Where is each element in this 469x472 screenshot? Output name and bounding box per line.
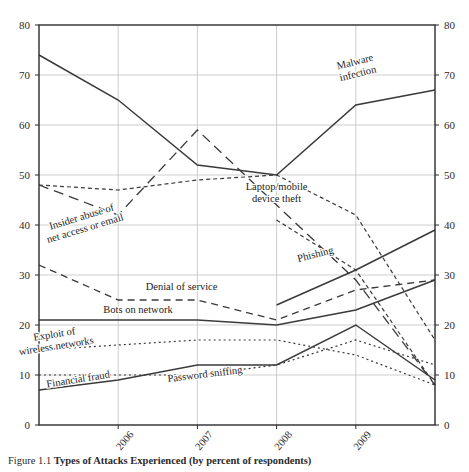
y-tick-label-right: 50 bbox=[444, 169, 456, 181]
series-label-line: Denial of service bbox=[146, 281, 218, 292]
y-tick-label: 30 bbox=[19, 269, 31, 281]
y-tick-label: 60 bbox=[19, 119, 31, 131]
series-label-bots-on-network: Bots on network bbox=[103, 304, 173, 315]
series-line bbox=[39, 175, 435, 340]
x-tick-label: 2006 bbox=[114, 429, 136, 452]
x-tick-label: 2009 bbox=[351, 429, 373, 452]
y-tick-label-right: 0 bbox=[444, 419, 450, 431]
y-tick-label: 70 bbox=[19, 69, 31, 81]
series-line bbox=[39, 265, 435, 320]
series-label-line: Financial fraud bbox=[46, 368, 112, 389]
series-label-denial-of-service: Denial of service bbox=[146, 281, 218, 292]
line-chart: 01020304050607080 01020304050607080 2006… bbox=[0, 0, 469, 472]
x-tick-label: 2007 bbox=[193, 429, 215, 452]
caption-title: Types of Attacks Experienced (by percent… bbox=[54, 455, 312, 466]
y-tick-label-right: 60 bbox=[444, 119, 456, 131]
figure-caption: Figure 1.1 Types of Attacks Experienced … bbox=[8, 455, 466, 466]
y-tick-label: 20 bbox=[19, 319, 31, 331]
series-label-password-sniffing: Password sniffing bbox=[167, 364, 244, 384]
y-tick-labels: 01020304050607080 bbox=[19, 19, 31, 431]
figure-container: 01020304050607080 01020304050607080 2006… bbox=[0, 0, 469, 472]
y-tick-label: 0 bbox=[25, 419, 31, 431]
series-label-insider-abuse-of-net-access-or-email: Insider abuse ofnet access or email bbox=[42, 200, 125, 245]
y-tick-label-right: 20 bbox=[444, 319, 456, 331]
series-line bbox=[39, 280, 435, 325]
series-label-line: Laptop/mobile bbox=[246, 181, 308, 192]
x-tick-labels: 2006200720082009 bbox=[114, 429, 374, 452]
series-label-laptop-mobile-device-theft: Laptop/mobiledevice theft bbox=[246, 181, 308, 204]
x-tick-label: 2008 bbox=[272, 429, 294, 452]
y-tick-label-right: 10 bbox=[444, 369, 456, 381]
y-tick-label: 50 bbox=[19, 169, 31, 181]
y-tick-label-right: 40 bbox=[444, 219, 456, 231]
y-tick-label-right: 80 bbox=[444, 19, 456, 31]
caption-number: Figure 1.1 bbox=[8, 455, 51, 466]
y-tick-label: 40 bbox=[19, 219, 31, 231]
y-tick-labels-right: 01020304050607080 bbox=[444, 19, 456, 431]
series-label-financial-fraud: Financial fraud bbox=[46, 368, 112, 389]
series-label-malware-infection: Malwareinfection bbox=[336, 52, 379, 84]
y-tick-label: 10 bbox=[19, 369, 31, 381]
series-label-phishing: Phishing bbox=[296, 244, 335, 264]
series-label-line: device theft bbox=[252, 193, 301, 204]
series-label-line: Phishing bbox=[296, 244, 335, 264]
series-label-line: Password sniffing bbox=[167, 364, 244, 384]
y-tick-label-right: 70 bbox=[444, 69, 456, 81]
series-label-line: Bots on network bbox=[103, 304, 173, 315]
series-line bbox=[39, 130, 435, 385]
y-tick-label-right: 30 bbox=[444, 269, 456, 281]
y-tick-label: 80 bbox=[19, 19, 31, 31]
